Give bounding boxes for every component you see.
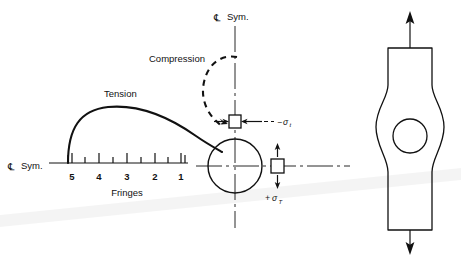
centerline-label-left: ℄ Sym. [7,160,43,172]
fringe-tick-labels: 5 4 3 2 1 [69,171,184,182]
tension-sigma: σ [272,193,278,203]
compression-element-box [229,115,241,128]
tension-curve-label: Tension [104,88,137,99]
fringe-tick-label-4: 4 [96,171,102,182]
centerline-glyph-left: ℄ [7,161,15,172]
fringe-tick-label-3: 3 [124,171,129,182]
compression-subscript: t [290,122,292,128]
stress-element-compression: − σ t [214,115,292,128]
fringes-axis-label: Fringes [111,187,143,198]
fringe-tick-label-2: 2 [152,171,157,182]
tension-subscript: T [279,199,284,205]
centerline-label-top: ℄ Sym. [213,11,249,23]
centerline-glyph-top: ℄ [213,12,221,23]
fringe-tick-label-1: 1 [178,171,184,182]
specimen-load-arrow-top [406,11,415,48]
tension-sign: + [265,193,270,203]
photoelastic-figure: ℄ Sym. 5 4 3 2 1 [0,0,461,263]
tension-element-box [271,159,284,173]
figure-canvas: ℄ Sym. 5 4 3 2 1 [0,0,461,263]
compression-curve-label: Compression [149,53,205,64]
fringe-tick-label-5: 5 [69,171,75,182]
compression-sign: − [277,117,282,127]
compression-stress-label: − σ t [277,117,292,129]
tension-specimen [376,11,444,255]
tension-curve [68,107,222,163]
specimen-outline [376,48,444,230]
compression-sigma: σ [283,117,289,127]
specimen-hole [393,119,427,153]
fringe-major-ticks [72,153,181,163]
sym-label-top: Sym. [227,11,249,22]
specimen-load-arrow-bottom [406,230,415,255]
sym-label-left: Sym. [21,160,43,171]
